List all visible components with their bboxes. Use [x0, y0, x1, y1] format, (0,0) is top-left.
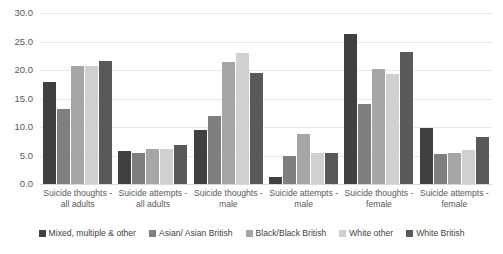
bar — [250, 73, 263, 184]
bar — [325, 153, 338, 184]
gridline — [40, 184, 492, 185]
bar-group — [341, 13, 416, 184]
y-axis-tick-label: 5.0 — [20, 151, 33, 161]
bar — [344, 34, 357, 184]
bar-group — [266, 13, 341, 184]
legend-label: Asian/ Asian British — [159, 228, 233, 238]
y-axis-tick-label: 0.0 — [20, 179, 33, 189]
bar — [311, 153, 324, 184]
bar — [194, 130, 207, 184]
legend-swatch-icon — [406, 230, 413, 237]
legend-item[interactable]: Black/Black British — [246, 228, 327, 238]
bar — [448, 153, 461, 184]
y-axis-tick-label: 15.0 — [15, 94, 34, 104]
y-axis-tick-label: 10.0 — [15, 122, 34, 132]
y-axis-tick-label: 25.0 — [15, 37, 34, 47]
bar — [358, 104, 371, 184]
bar — [99, 61, 112, 184]
category-label: Suicide attempts - male — [266, 188, 341, 210]
bar — [146, 149, 159, 184]
legend-swatch-icon — [149, 230, 156, 237]
bar — [174, 145, 187, 184]
bar — [43, 82, 56, 184]
bar — [222, 62, 235, 184]
bar — [283, 156, 296, 185]
bar — [462, 150, 475, 184]
legend-item[interactable]: White other — [339, 228, 393, 238]
bar — [57, 109, 70, 184]
bar — [269, 177, 282, 184]
category-axis-labels: Suicide thoughts - all adultsSuicide att… — [40, 188, 492, 210]
category-label: Suicide thoughts - male — [191, 188, 266, 210]
bar — [372, 69, 385, 184]
legend-label: Black/Black British — [256, 228, 327, 238]
y-axis: 30.025.020.015.010.05.00.0 — [0, 0, 38, 184]
bar — [160, 149, 173, 184]
legend-item[interactable]: Asian/ Asian British — [149, 228, 233, 238]
bar-group — [191, 13, 266, 184]
bar — [118, 151, 131, 184]
legend-item[interactable]: White British — [406, 228, 464, 238]
legend-item[interactable]: Mixed, multiple & other — [39, 228, 136, 238]
bar-group — [115, 13, 190, 184]
bar — [434, 154, 447, 184]
legend-swatch-icon — [39, 230, 46, 237]
legend-label: White British — [416, 228, 464, 238]
category-label: Suicide thoughts - female — [341, 188, 416, 210]
bar — [400, 52, 413, 184]
bar-groups — [40, 13, 492, 184]
category-label: Suicide attempts - all adults — [115, 188, 190, 210]
bar — [476, 137, 489, 184]
bar — [85, 66, 98, 184]
legend-label: White other — [349, 228, 393, 238]
bar — [386, 74, 399, 184]
legend: Mixed, multiple & otherAsian/ Asian Brit… — [0, 228, 503, 238]
y-axis-tick-label: 20.0 — [15, 65, 34, 75]
bar — [236, 53, 249, 184]
category-label: Suicide thoughts - all adults — [40, 188, 115, 210]
bar-chart: 30.025.020.015.010.05.00.0 Suicide thoug… — [0, 0, 503, 254]
legend-swatch-icon — [339, 230, 346, 237]
bar-group — [417, 13, 492, 184]
legend-label: Mixed, multiple & other — [49, 228, 136, 238]
legend-swatch-icon — [246, 230, 253, 237]
bar — [297, 134, 310, 184]
bar — [132, 153, 145, 184]
bar — [420, 128, 433, 184]
bar — [71, 66, 84, 184]
category-label: Suicide attempts - female — [417, 188, 492, 210]
y-axis-tick-label: 30.0 — [15, 8, 34, 18]
bar — [208, 116, 221, 184]
bar-group — [40, 13, 115, 184]
